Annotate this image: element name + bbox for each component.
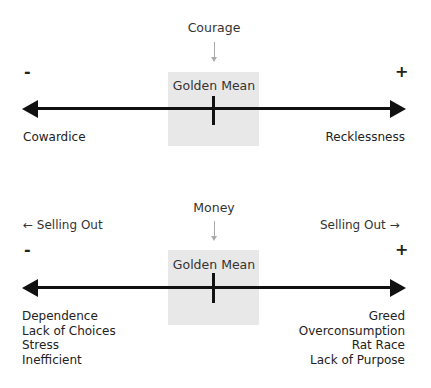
minus-sign: - xyxy=(24,240,31,259)
list-item: Lack of Choices xyxy=(22,324,116,339)
right-direction-label: Selling Out → xyxy=(320,218,400,232)
right-extremes-list: Greed Overconsumption Rat Race Lack of P… xyxy=(299,309,405,367)
list-item: Dependence xyxy=(22,309,116,324)
list-item: Stress xyxy=(22,338,116,353)
list-item: Greed xyxy=(299,309,405,324)
golden-mean-label: Golden Mean xyxy=(173,257,255,272)
golden-mean-tick xyxy=(212,273,215,303)
left-direction-label: ← Selling Out xyxy=(23,218,103,232)
down-arrow-icon xyxy=(214,221,215,237)
arrow-left-icon xyxy=(22,279,38,297)
list-item: Overconsumption xyxy=(299,324,405,339)
spectrum-title: Money xyxy=(193,200,234,215)
list-item: Inefficient xyxy=(22,353,116,368)
list-item: Rat Race xyxy=(299,338,405,353)
plus-sign: + xyxy=(395,240,408,259)
left-extremes-list: Dependence Lack of Choices Stress Ineffi… xyxy=(22,309,116,367)
list-item: Lack of Purpose xyxy=(299,353,405,368)
money-spectrum-diagram: Money ← Selling Out Selling Out → Golden… xyxy=(0,0,431,388)
arrow-right-icon xyxy=(390,279,406,297)
